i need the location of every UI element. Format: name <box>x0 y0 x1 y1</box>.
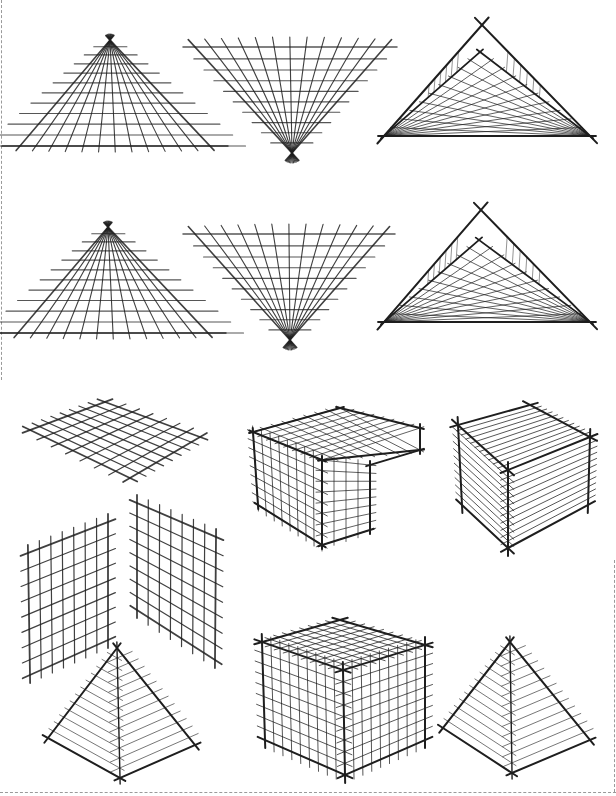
nested-triangle-2 <box>377 202 597 329</box>
wall-plane-right <box>130 495 224 668</box>
pyramid-right <box>438 636 596 779</box>
pyramid-left <box>43 642 201 784</box>
fan-triangle-down-2 <box>183 224 395 350</box>
ground-plane-grid <box>23 399 208 482</box>
fan-triangle-up-2 <box>0 221 244 339</box>
nested-triangle-1 <box>377 18 597 144</box>
grid-cube <box>254 618 432 783</box>
hatched-cube <box>450 401 597 556</box>
drawing-canvas <box>0 0 616 796</box>
fan-triangle-down-1 <box>183 37 397 163</box>
fan-triangle-up-1 <box>0 34 246 152</box>
l-shaped-block <box>247 406 424 551</box>
wall-plane-left <box>21 514 116 683</box>
